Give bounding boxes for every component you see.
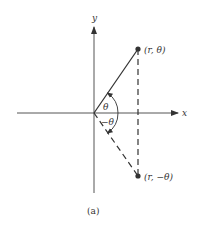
negative-theta-angle-label: −θ bbox=[101, 117, 115, 127]
point-r-negative-theta-label: (r, −θ) bbox=[144, 172, 174, 182]
point-r-theta-label: (r, θ) bbox=[144, 45, 166, 55]
point-r-negative-theta bbox=[135, 173, 140, 178]
y-axis-label: y bbox=[91, 13, 98, 23]
figure-caption: (a) bbox=[87, 206, 99, 216]
theta-angle-label: θ bbox=[103, 102, 109, 112]
theta-arc bbox=[108, 93, 119, 113]
x-axis-label: x bbox=[182, 108, 187, 118]
polar-symmetry-diagram: y x (r, θ) (r, −θ) θ −θ (a) bbox=[0, 0, 200, 227]
point-r-theta bbox=[135, 46, 140, 51]
